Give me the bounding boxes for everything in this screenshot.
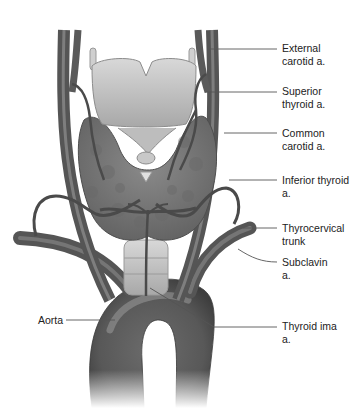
label-subclavian: Subclavin a. xyxy=(282,256,328,281)
label-inferior-thyroid: Inferior thyroid a. xyxy=(282,174,349,199)
label-superior-thyroid: Superior thyroid a. xyxy=(282,85,325,110)
label-external-carotid: External carotid a. xyxy=(282,42,325,67)
aorta xyxy=(80,279,230,408)
label-thyrocervical-trunk: Thyrocervical trunk xyxy=(282,222,344,247)
label-thyroid-ima: Thyroid ima a. xyxy=(282,320,337,345)
thyroid-artery-diagram: External carotid a. Superior thyroid a. … xyxy=(0,0,362,408)
label-aorta: Aorta xyxy=(38,314,63,327)
label-common-carotid: Common carotid a. xyxy=(282,127,325,152)
